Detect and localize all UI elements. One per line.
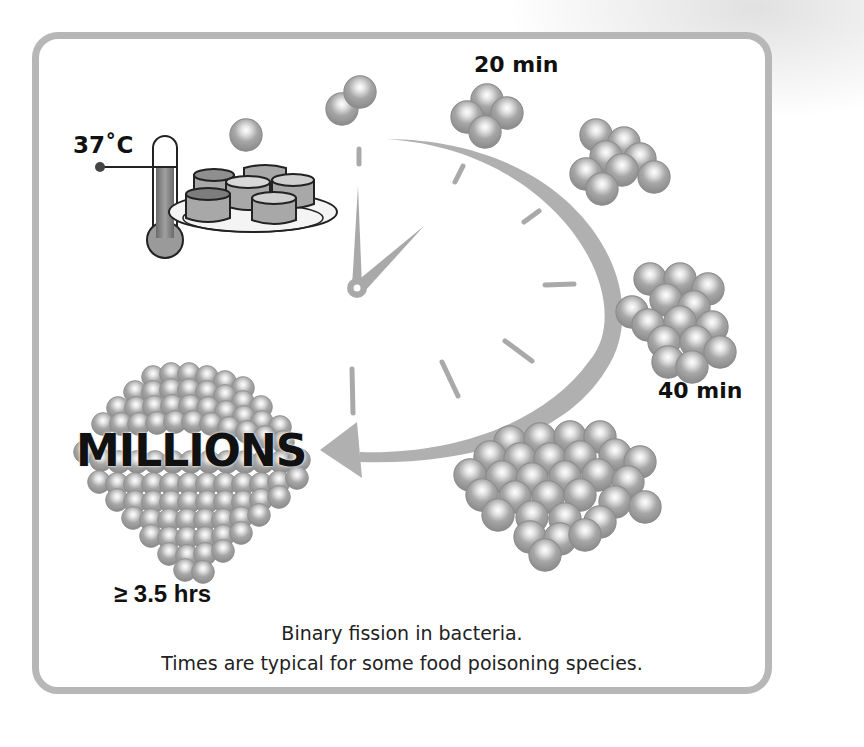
food-plate-icon [169, 165, 337, 232]
final-time-label: ≥ 3.5 hrs [114, 580, 211, 608]
caption-line-1: Binary fission in bacteria. [32, 622, 772, 644]
time-20-min-label: 20 min [474, 52, 558, 77]
bacteria-cluster-icon [230, 76, 376, 151]
time-40-min-label: 40 min [658, 378, 742, 403]
bacteria-cluster-icon [616, 263, 736, 383]
millions-label: MILLIONS [76, 425, 307, 476]
bacteria-cluster-icon [570, 119, 670, 205]
bacteria-cluster-icon [451, 84, 523, 148]
caption-line-2: Times are typical for some food poisonin… [32, 652, 772, 674]
bacteria-cluster-icon [454, 421, 661, 571]
temperature-label: 37˚C [73, 132, 133, 158]
